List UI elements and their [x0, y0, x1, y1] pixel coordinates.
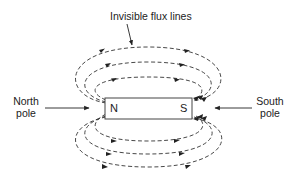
magnetic-field-diagram: [0, 0, 296, 179]
north-pole-label-line2: pole: [10, 107, 42, 119]
title-label: Invisible flux lines: [110, 10, 192, 22]
north-pole-label-line1: North: [10, 95, 42, 107]
south-pole-letter: S: [180, 102, 187, 114]
flux-lines-top: [75, 47, 220, 103]
flux-line-top-inner: [95, 77, 202, 100]
flux-lines-bottom: [75, 114, 221, 167]
north-pole-label: North pole: [10, 95, 42, 119]
arrow-icon: [102, 164, 108, 169]
north-pole-letter: N: [110, 102, 118, 114]
arrow-icon: [106, 152, 112, 156]
south-pole-label: South pole: [254, 95, 286, 119]
flux-line-bottom-outer: [75, 117, 221, 167]
south-pole-label-line1: South: [254, 95, 286, 107]
title-pointer-arrow: [127, 24, 132, 45]
south-pole-label-line2: pole: [254, 107, 286, 119]
arrow-icon: [99, 49, 105, 54]
arrow-icon: [185, 165, 191, 169]
arrow-icon: [111, 139, 117, 143]
arrow-icon: [184, 49, 190, 53]
arrow-icon: [179, 152, 185, 156]
bar-magnet: [105, 98, 192, 119]
arrow-icon: [111, 78, 117, 82]
arrow-icon: [174, 139, 180, 143]
